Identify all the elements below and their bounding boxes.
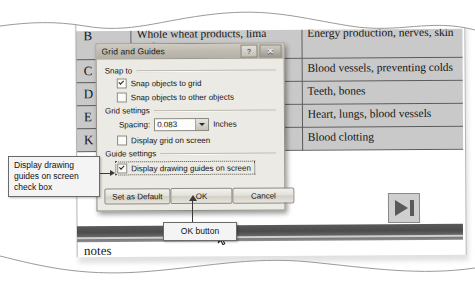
group-divider xyxy=(136,69,275,72)
checkbox-label: Snap objects to other objects xyxy=(131,92,234,102)
callout-display-drawing-guides-check-box: Display drawing guides on screen check b… xyxy=(8,156,100,197)
help-glyph: ? xyxy=(247,47,251,54)
callout-leader-line-ok xyxy=(192,199,193,223)
checkbox-icon[interactable] xyxy=(117,135,127,145)
chevron-down-icon[interactable] xyxy=(195,119,208,130)
dialog-title: Grid and Guides xyxy=(102,46,239,57)
callout-arrow-checkbox xyxy=(110,170,115,176)
callout-ok-button: OK button xyxy=(163,222,237,241)
group-snap-to: Snap to Snap objects to grid Snap object… xyxy=(105,65,276,102)
cancel-button[interactable]: Cancel xyxy=(232,187,294,203)
app-status-bar xyxy=(77,224,463,242)
group-label-guide-settings: Guide settings xyxy=(105,149,156,158)
checkbox-label: Display drawing guides on screen xyxy=(131,163,251,173)
group-label-grid-settings: Grid settings xyxy=(105,106,150,115)
spacing-input[interactable] xyxy=(155,120,195,129)
end-bar-icon xyxy=(409,200,413,216)
play-triangle-icon xyxy=(394,200,407,216)
checkbox-label: Snap objects to grid xyxy=(131,78,202,87)
spacing-control: Spacing: Inches xyxy=(119,117,276,131)
dialog-body: Snap to Snap objects to grid Snap object… xyxy=(97,58,285,175)
checkbox-icon[interactable] xyxy=(117,92,127,102)
next-slide-button[interactable] xyxy=(388,193,420,223)
checkbox-label: Display grid on screen xyxy=(131,135,210,144)
close-icon[interactable]: ✕ xyxy=(259,44,281,57)
notes-label: notes xyxy=(84,243,112,259)
app-bar-highlight xyxy=(77,235,463,239)
cell-benefit: Blood vessels, preventing colds xyxy=(302,57,464,81)
group-heading: Guide settings xyxy=(105,148,276,158)
group-divider xyxy=(154,109,276,112)
cell-benefit: Heart, lungs, blood vessels xyxy=(302,103,463,127)
callout-arrow-ok xyxy=(189,195,197,201)
close-glyph: ✕ xyxy=(267,46,274,55)
group-heading: Snap to xyxy=(105,65,276,75)
spacing-units-label: Inches xyxy=(213,120,237,129)
group-heading: Grid settings xyxy=(105,105,276,115)
cell-benefit: Blood clotting xyxy=(302,126,463,150)
ok-button[interactable]: OK xyxy=(170,188,232,204)
cell-benefit: Energy production, nerves, skin xyxy=(302,29,464,58)
group-divider xyxy=(160,152,276,155)
checkbox-icon[interactable] xyxy=(117,78,127,88)
group-label-snap-to: Snap to xyxy=(105,66,133,75)
scanned-page: B Whole wheat products, lima soybeans En… xyxy=(0,0,475,282)
dialog-title-bar[interactable]: Grid and Guides ? ✕ xyxy=(96,43,283,59)
checkbox-snap-to-grid[interactable]: Snap objects to grid xyxy=(117,77,276,88)
group-grid-settings: Grid settings Spacing: Inches Display gr… xyxy=(105,105,276,145)
group-guide-settings: Guide settings Display drawing guides on… xyxy=(105,148,276,175)
spacing-combobox[interactable] xyxy=(154,118,209,131)
spacing-label: Spacing: xyxy=(119,120,150,129)
help-icon[interactable]: ? xyxy=(240,44,257,57)
checkbox-display-grid-on-screen[interactable]: Display grid on screen xyxy=(117,134,276,145)
set-as-default-button[interactable]: Set as Default xyxy=(104,188,170,204)
checkbox-icon[interactable] xyxy=(117,163,127,173)
checkbox-display-drawing-guides-on-screen[interactable]: Display drawing guides on screen xyxy=(115,161,255,176)
grid-and-guides-dialog: Grid and Guides ? ✕ Snap to Snap objects… xyxy=(95,42,285,211)
cell-benefit: Teeth, bones xyxy=(302,80,464,104)
checkbox-snap-to-other-objects[interactable]: Snap objects to other objects xyxy=(117,91,276,102)
